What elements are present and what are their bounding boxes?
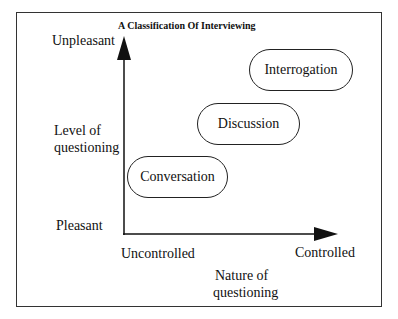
x-axis-name-line2: questioning [213, 285, 278, 301]
y-axis-name-line1: Level of [54, 123, 101, 139]
node-interrogation: Interrogation [249, 49, 353, 91]
x-axis-right-label: Controlled [295, 245, 355, 261]
y-axis-arrowhead-icon [117, 36, 131, 60]
y-axis-bottom-label: Pleasant [56, 218, 103, 234]
node-discussion-label: Discussion [218, 116, 279, 132]
node-conversation-label: Conversation [140, 169, 215, 185]
node-conversation: Conversation [127, 156, 228, 198]
node-interrogation-label: Interrogation [264, 62, 337, 78]
x-axis-left-label: Uncontrolled [121, 246, 195, 262]
node-discussion: Discussion [197, 103, 300, 145]
y-axis-top-label: Unpleasant [52, 33, 115, 49]
y-axis-name-line2: questioning [54, 140, 119, 156]
x-axis-name-line1: Nature of [215, 268, 268, 284]
x-axis-arrowhead-icon [314, 227, 338, 241]
